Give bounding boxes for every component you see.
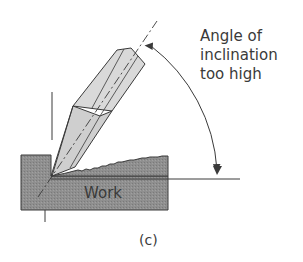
figure-caption: (c) — [139, 231, 158, 250]
cutting-tool — [51, 48, 145, 176]
angle-annotation-line1: Angle of — [200, 27, 300, 46]
angle-annotation: Angle of inclination too high — [200, 27, 300, 84]
angle-annotation-line2: inclination — [200, 46, 300, 65]
arrowhead-bottom-icon — [213, 166, 222, 175]
angle-annotation-line3: too high — [200, 65, 300, 84]
work-label: Work — [84, 184, 122, 203]
arrowhead-top-icon — [145, 42, 156, 52]
